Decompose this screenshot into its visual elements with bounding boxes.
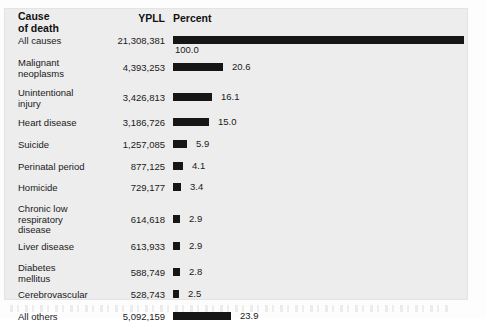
table-row: Heart disease3,186,72615.0 — [4, 118, 468, 140]
row-value-ypll: 877,125 — [4, 162, 165, 173]
row-value-ypll: 3,186,726 — [4, 118, 165, 129]
row-bar-area: 100.0 — [173, 36, 468, 58]
bar-value-label: 20.6 — [232, 62, 251, 73]
row-value-ypll: 729,177 — [4, 183, 165, 194]
table-row: Homicide729,1773.4 — [4, 183, 468, 204]
row-bar-area: 2.9 — [173, 204, 468, 242]
row-value-ypll: 4,393,253 — [4, 63, 165, 74]
bar-value-label: 2.9 — [189, 241, 202, 252]
bar-value-label: 16.1 — [221, 92, 240, 103]
bar-value-label: 23.9 — [240, 311, 259, 322]
bar-value-label: 100.0 — [175, 45, 199, 56]
table-row: Unintentionalinjury3,426,81316.1 — [4, 88, 468, 118]
bar — [173, 93, 212, 101]
bar-value-label: 4.1 — [192, 161, 205, 172]
bar-value-label: 15.0 — [218, 117, 237, 128]
bar — [173, 36, 464, 44]
bar — [173, 140, 187, 148]
row-value-ypll: 528,743 — [4, 290, 165, 301]
bar — [173, 162, 183, 170]
chart-rows: All causes21,308,381100.0Malignantneopla… — [4, 36, 468, 326]
row-value-ypll: 613,933 — [4, 242, 165, 253]
row-value-ypll: 588,749 — [4, 268, 165, 279]
row-value-ypll: 3,426,813 — [4, 93, 165, 104]
bar — [173, 268, 180, 276]
bar-value-label: 5.9 — [196, 139, 209, 150]
column-header-ypll: YPLL — [4, 12, 165, 24]
table-row: Chronic lowrespiratorydisease614,6182.9 — [4, 204, 468, 242]
row-label-line: disease — [18, 225, 136, 236]
bar-value-label: 2.5 — [188, 289, 201, 300]
table-row: All causes21,308,381100.0 — [4, 36, 468, 58]
bar — [173, 312, 231, 320]
bar — [173, 290, 179, 298]
row-bar-area: 2.9 — [173, 242, 468, 263]
row-bar-area: 16.1 — [173, 88, 468, 118]
row-bar-area: 15.0 — [173, 118, 468, 140]
bar-value-label: 3.4 — [190, 182, 203, 193]
row-value-ypll: 614,618 — [4, 215, 165, 226]
bar — [173, 183, 181, 191]
chart-panel: Cause of death YPLL Percent All causes21… — [4, 8, 468, 300]
table-row: Liver disease613,9332.9 — [4, 242, 468, 263]
row-bar-area: 23.9 — [173, 312, 468, 326]
row-bar-area: 4.1 — [173, 162, 468, 183]
row-value-ypll: 21,308,381 — [4, 36, 165, 47]
row-bar-area: 2.8 — [173, 263, 468, 290]
bar — [173, 63, 223, 71]
figure-caption-smudge — [10, 305, 450, 312]
column-header-cause-line2: of death — [18, 23, 138, 35]
table-row: Perinatal period877,1254.1 — [4, 162, 468, 183]
row-bar-area: 20.6 — [173, 58, 468, 88]
bar — [173, 215, 180, 223]
table-row: Suicide1,257,0855.9 — [4, 140, 468, 162]
table-row: Malignantneoplasms4,393,25320.6 — [4, 58, 468, 88]
column-header-percent: Percent — [173, 12, 212, 24]
table-row: Diabetesmellitus588,7492.8 — [4, 263, 468, 290]
row-bar-area: 3.4 — [173, 183, 468, 204]
row-value-ypll: 5,092,159 — [4, 312, 165, 323]
table-row: All others5,092,15923.9 — [4, 312, 468, 326]
bar-value-label: 2.8 — [189, 267, 202, 278]
row-value-ypll: 1,257,085 — [4, 140, 165, 151]
row-bar-area: 5.9 — [173, 140, 468, 162]
bar — [173, 118, 209, 126]
bar-value-label: 2.9 — [189, 214, 202, 225]
row-label-line: Chronic low — [18, 204, 136, 215]
bar — [173, 242, 180, 250]
